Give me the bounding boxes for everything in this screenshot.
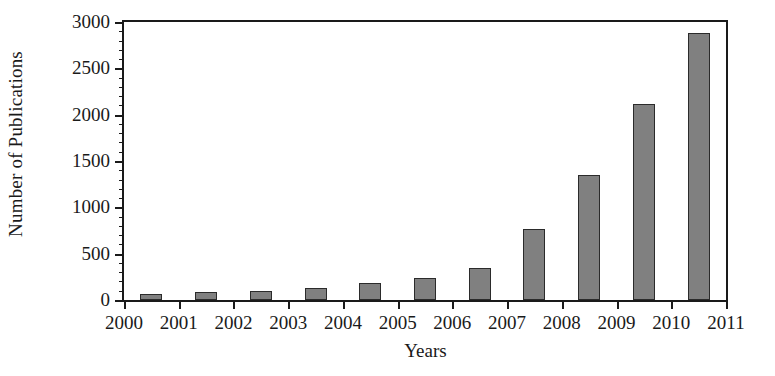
x-axis-tick bbox=[179, 300, 181, 309]
plot-area: 0500100015002000250030002000200120022003… bbox=[122, 20, 728, 302]
y-axis-minor-tick bbox=[119, 87, 124, 88]
y-axis-minor-tick bbox=[119, 59, 124, 60]
x-axis-tick bbox=[398, 300, 400, 309]
x-axis-tick-label: 2009 bbox=[598, 312, 636, 334]
x-axis-tick bbox=[671, 300, 673, 309]
y-axis-title-text: Number of Publications bbox=[5, 51, 27, 237]
y-axis-minor-tick bbox=[119, 189, 124, 190]
x-axis-tick-label: 2003 bbox=[269, 312, 307, 334]
x-axis-tick-label: 2006 bbox=[433, 312, 471, 334]
y-axis-minor-tick bbox=[119, 291, 124, 292]
x-axis-tick-label: 2002 bbox=[214, 312, 252, 334]
bar-2009 bbox=[633, 104, 655, 300]
x-axis-tick-label: 2005 bbox=[379, 312, 417, 334]
x-axis-tick bbox=[562, 300, 564, 309]
y-axis-minor-tick bbox=[119, 31, 124, 32]
y-axis-minor-tick bbox=[119, 198, 124, 199]
x-axis-tick-label: 2001 bbox=[160, 312, 198, 334]
y-axis-minor-tick bbox=[119, 272, 124, 273]
bar-2002 bbox=[250, 291, 272, 300]
bar-2000 bbox=[140, 294, 162, 300]
y-axis-minor-tick bbox=[119, 152, 124, 153]
y-axis-minor-tick bbox=[119, 124, 124, 125]
y-axis-tick bbox=[115, 300, 124, 302]
x-axis-tick bbox=[288, 300, 290, 309]
y-axis-minor-tick bbox=[119, 133, 124, 134]
y-axis-minor-tick bbox=[119, 281, 124, 282]
y-axis-tick bbox=[115, 254, 124, 256]
x-axis-tick-label: 2011 bbox=[707, 312, 744, 334]
x-axis-tick-label: 2000 bbox=[105, 312, 143, 334]
y-axis-tick bbox=[115, 207, 124, 209]
y-axis-minor-tick bbox=[119, 50, 124, 51]
bar-2001 bbox=[195, 292, 217, 300]
y-axis-minor-tick bbox=[119, 217, 124, 218]
y-axis-minor-tick bbox=[119, 244, 124, 245]
x-axis-title: Years bbox=[122, 340, 729, 362]
bar-2005 bbox=[414, 278, 436, 300]
y-axis-tick-label: 1500 bbox=[72, 150, 110, 172]
y-axis-minor-tick bbox=[119, 78, 124, 79]
y-axis-minor-tick bbox=[119, 235, 124, 236]
y-axis-minor-tick bbox=[119, 142, 124, 143]
y-axis-tick bbox=[115, 115, 124, 117]
y-axis-tick bbox=[115, 68, 124, 70]
y-axis-tick-label: 1000 bbox=[72, 196, 110, 218]
x-axis-tick bbox=[726, 300, 728, 309]
y-axis-tick-label: 2500 bbox=[72, 57, 110, 79]
bar-2010 bbox=[688, 33, 710, 300]
y-axis-minor-tick bbox=[119, 263, 124, 264]
y-axis-minor-tick bbox=[119, 170, 124, 171]
y-axis-tick bbox=[115, 161, 124, 163]
y-axis-minor-tick bbox=[119, 96, 124, 97]
publications-bar-chart: Number of Publications 05001000150020002… bbox=[0, 0, 775, 376]
x-axis-tick-label: 2004 bbox=[324, 312, 362, 334]
y-axis-tick-label: 3000 bbox=[72, 11, 110, 33]
x-axis-tick bbox=[507, 300, 509, 309]
bar-2006 bbox=[469, 268, 491, 300]
y-axis-tick-label: 2000 bbox=[72, 104, 110, 126]
y-axis-minor-tick bbox=[119, 180, 124, 181]
y-axis-tick bbox=[115, 22, 124, 24]
x-axis-tick bbox=[452, 300, 454, 309]
x-axis-tick bbox=[124, 300, 126, 309]
y-axis-tick-label: 0 bbox=[101, 289, 111, 311]
x-axis-tick bbox=[343, 300, 345, 309]
bar-2008 bbox=[578, 175, 600, 300]
x-axis-tick bbox=[617, 300, 619, 309]
y-axis-minor-tick bbox=[119, 226, 124, 227]
x-axis-tick bbox=[233, 300, 235, 309]
x-axis-tick-label: 2008 bbox=[543, 312, 581, 334]
bar-2003 bbox=[305, 288, 327, 301]
bar-2004 bbox=[359, 283, 381, 300]
bar-2007 bbox=[523, 229, 545, 300]
y-axis-title: Number of Publications bbox=[0, 3, 34, 285]
y-axis-minor-tick bbox=[119, 41, 124, 42]
y-axis-tick-label: 500 bbox=[82, 243, 111, 265]
x-axis-tick-label: 2007 bbox=[488, 312, 526, 334]
x-axis-tick-label: 2010 bbox=[652, 312, 690, 334]
y-axis-minor-tick bbox=[119, 105, 124, 106]
